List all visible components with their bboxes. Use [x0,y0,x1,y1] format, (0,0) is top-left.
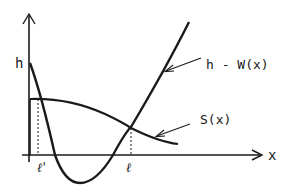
y-axis [23,14,35,162]
x-axis [22,150,262,160]
s-label: S(x) [200,112,231,127]
y-axis-label: h [15,55,23,71]
x-axis-label: x [268,147,276,163]
diagram-canvas: h x ℓ' ℓ h - W(x) S(x) [0,0,289,188]
h-minus-w-label: h - W(x) [206,57,269,72]
l-label: ℓ [126,160,132,175]
s-leader [156,124,190,137]
h-minus-w-curve [30,22,189,183]
l-prime-label: ℓ' [37,160,46,175]
